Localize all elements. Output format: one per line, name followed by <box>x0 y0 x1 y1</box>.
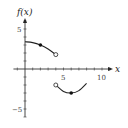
closed-dot-icon <box>69 91 73 95</box>
x-axis-arrow-icon <box>108 67 113 71</box>
x-tick-label-5: 5 <box>61 74 65 82</box>
open-circle-icon <box>54 83 58 87</box>
function-graph: f(x) x 5 10 5 −5 <box>0 0 128 128</box>
y-tick-label-neg5: −5 <box>12 106 22 114</box>
x-axis-label: x <box>115 64 120 74</box>
open-circle-icon <box>54 53 58 57</box>
x-tick-label-10: 10 <box>97 74 106 82</box>
closed-dot-icon <box>39 43 43 47</box>
y-axis-arrow-icon <box>23 18 27 23</box>
y-tick-label-5: 5 <box>17 26 21 34</box>
y-axis-label: f(x) <box>16 7 33 17</box>
